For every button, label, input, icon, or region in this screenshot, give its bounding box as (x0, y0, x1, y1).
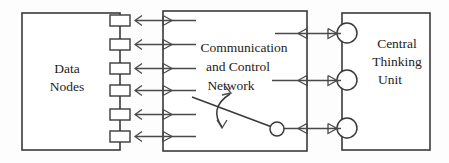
data-node-port-2 (110, 39, 130, 50)
central-thinking-unit-label-line1: Central (377, 36, 417, 51)
data-nodes-label-line2: Nodes (50, 79, 85, 94)
data-nodes-label-line1: Data (54, 61, 79, 76)
data-node-port-3 (110, 63, 130, 74)
system-block-diagram: Data Nodes Communication and Control Net… (0, 0, 449, 163)
switch-knob (270, 122, 284, 136)
data-node-port-4 (110, 85, 130, 96)
communication-network-label-line2: and Control (206, 59, 270, 74)
central-thinking-unit-label-line3: Unit (378, 72, 402, 87)
diagram-canvas: Data Nodes Communication and Control Net… (0, 0, 449, 163)
data-node-port-5 (110, 109, 130, 120)
data-node-port-6 (110, 131, 130, 142)
communication-network-label-line3: Network (207, 78, 254, 93)
data-node-port-1 (110, 15, 130, 26)
block-data-nodes: Data Nodes (22, 13, 130, 150)
communication-network-label-line1: Communication (201, 40, 288, 55)
block-central-thinking-unit: Central Thinking Unit (337, 13, 430, 150)
central-thinking-unit-label-line2: Thinking (372, 54, 422, 69)
